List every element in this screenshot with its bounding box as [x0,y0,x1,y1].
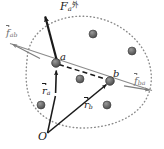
position-a-subscript: a [47,89,51,96]
internal-force-ab-symbol: f [6,27,10,38]
internal-force-ba-subscript: ba [138,79,146,86]
particle [103,101,111,109]
position-b-label: rb [84,100,93,110]
system-boundary [26,16,151,128]
diagram-canvas [0,0,164,149]
point-a-label: a [60,52,66,62]
particle [76,75,84,83]
position-b-subscript: b [89,103,93,110]
origin-label: O [38,131,47,142]
internal-force-ba-label: fba [134,76,145,86]
external-force-superscript: 外 [72,1,79,9]
position-b-symbol: r [84,99,89,110]
physics-diagram-figure: Fa外 fab fba a b ra rb O [0,0,164,149]
particle [128,47,136,55]
particle [89,30,97,38]
particle-a [52,59,61,68]
internal-force-ab-arrow [13,44,41,58]
position-a-arrow [48,71,57,134]
internal-force-ab-subscript: ab [10,31,18,38]
internal-force-ab-label: fab [6,28,17,38]
position-a-label: ra [42,86,50,96]
internal-force-ba-symbol: f [134,75,138,86]
point-b-label: b [113,69,119,79]
position-a-symbol: r [42,85,47,96]
particle [37,101,45,109]
external-force-symbol: F [60,0,68,13]
external-force-label: Fa外 [60,1,79,13]
